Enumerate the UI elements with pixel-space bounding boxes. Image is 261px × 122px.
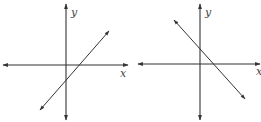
y-axis-label: y	[204, 6, 212, 19]
x-axis-label: x	[256, 65, 261, 78]
graph-left: y x	[3, 4, 128, 120]
x-axis-label: x	[120, 67, 127, 80]
graph-right: y x	[138, 4, 261, 120]
positive-slope-line	[40, 31, 109, 110]
graphs-canvas: y x y x	[0, 0, 261, 122]
y-axis-label: y	[70, 6, 78, 19]
negative-slope-line	[174, 20, 245, 99]
